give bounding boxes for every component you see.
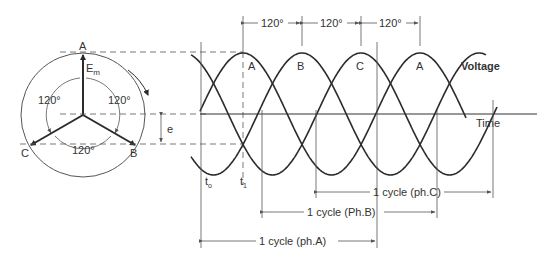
angle-bottom: 120° (72, 144, 95, 156)
peak-label-c: C (356, 60, 364, 72)
cycle-label-a: 1 cycle (ph.A) (259, 235, 326, 247)
three-phase-diagram: A C B Em 120° 120° 120° e Time (0, 0, 545, 260)
label-e: e (167, 123, 173, 135)
cycle-label-b: 1 cycle (Ph.B) (307, 206, 375, 218)
phasor-diagram: A C B Em 120° 120° 120° (21, 40, 148, 177)
spacing-label-3: 120° (379, 17, 402, 29)
voltage-label: Voltage (461, 60, 500, 72)
t0-label: to (205, 175, 212, 189)
spacing-label-1: 120° (261, 17, 284, 29)
phasor-b (83, 115, 135, 145)
label-b: B (130, 147, 137, 159)
label-c: C (21, 147, 29, 159)
cycle-label-c: 1 cycle (ph.C) (373, 186, 441, 198)
peak-label-b: B (297, 60, 304, 72)
label-em: Em (86, 62, 100, 77)
phasor-c (31, 115, 83, 145)
spacing-label-2: 120° (320, 17, 343, 29)
angle-left: 120° (38, 94, 61, 106)
rotation-arrow-icon (128, 70, 148, 95)
t1-label: t1 (240, 175, 247, 189)
peak-label-a1: A (248, 60, 256, 72)
angle-right: 120° (108, 94, 131, 106)
label-a: A (79, 40, 87, 52)
projection-lines (20, 52, 243, 185)
peak-label-a2: A (416, 60, 424, 72)
